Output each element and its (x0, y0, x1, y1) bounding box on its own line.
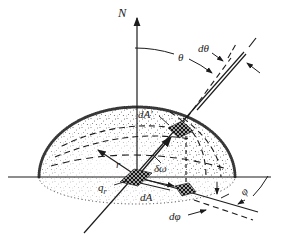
solid-angle-label: δω (154, 162, 167, 174)
phi-label: φ (237, 185, 250, 198)
beam-width-arrow (247, 63, 260, 73)
gap-tick (221, 194, 229, 198)
normal-axis-label: N (117, 6, 127, 20)
dphi-arrow (188, 210, 206, 215)
dtheta-label: dθ (198, 42, 210, 54)
base-element-label: dA (140, 191, 153, 203)
phi-arc-arrow (238, 200, 245, 204)
phi-arc (253, 176, 268, 196)
solid-angle-figure: N θ dθ dA′ δω r qr dA dφ φ (0, 0, 281, 247)
ray-upper-edge (197, 54, 246, 110)
dtheta-tick (228, 44, 236, 58)
theta-arc (135, 48, 174, 54)
dphi-dashed-line (194, 200, 253, 220)
theta-arc-arrow (189, 59, 212, 73)
dphi-label: dφ (169, 210, 181, 222)
solid-angle-diagram: N θ dθ dA′ δω r qr dA dφ φ (0, 0, 281, 247)
radius-label: r (116, 158, 121, 170)
ray-tip-tick (249, 38, 256, 47)
dtheta-arrow (212, 53, 223, 61)
surface-element-label: dA′ (138, 108, 153, 120)
theta-label: θ (178, 51, 184, 63)
